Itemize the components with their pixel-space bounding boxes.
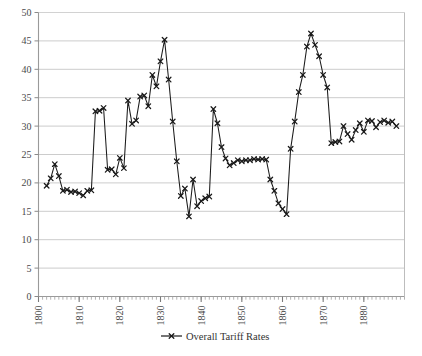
x-tick-label-1840: 1840: [196, 306, 207, 326]
x-tick-label-1870: 1870: [318, 306, 329, 326]
y-tick-label-25: 25: [22, 149, 32, 160]
y-tick-label-50: 50: [22, 7, 32, 18]
y-tick-label-45: 45: [22, 35, 32, 46]
x-tick-label-1880: 1880: [358, 306, 369, 326]
y-tick-label-15: 15: [22, 206, 32, 217]
y-tick-label-35: 35: [22, 92, 32, 103]
x-tick-label-1850: 1850: [236, 306, 247, 326]
y-tick-label-10: 10: [22, 234, 32, 245]
legend-label-overall-tariff-rates: Overall Tariff Rates: [186, 331, 269, 342]
y-tick-label-30: 30: [22, 121, 32, 132]
y-tick-label-20: 20: [22, 177, 32, 188]
y-tick-label-40: 40: [22, 64, 32, 75]
y-tick-label-5: 5: [27, 263, 32, 274]
chart-canvas: 05101520253035404550 1800181018201830184…: [0, 0, 422, 356]
x-tick-label-1860: 1860: [277, 306, 288, 326]
tariff-rates-chart: 05101520253035404550 1800181018201830184…: [0, 0, 422, 356]
x-tick-label-1830: 1830: [155, 306, 166, 326]
x-tick-label-1820: 1820: [114, 306, 125, 326]
x-axis-tick-labels: 180018101820183018401850186018701880: [33, 306, 369, 326]
chart-background: [0, 0, 422, 356]
y-tick-label-0: 0: [27, 291, 32, 302]
x-tick-label-1810: 1810: [74, 306, 85, 326]
x-tick-label-1800: 1800: [33, 306, 44, 326]
